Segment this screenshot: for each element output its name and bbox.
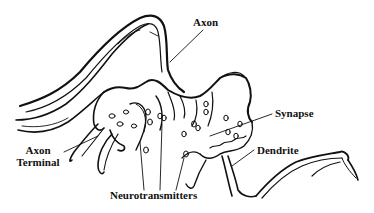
label-dendrite: Dendrite xyxy=(257,144,299,156)
label-axon: Axon xyxy=(193,16,218,28)
axon-shape xyxy=(16,16,184,132)
label-synapse: Synapse xyxy=(275,107,314,119)
synapse-drawing xyxy=(0,0,374,213)
label-axon-terminal-line2: Terminal xyxy=(10,156,66,168)
label-neurotransmitters: Neurotransmitters xyxy=(110,189,197,201)
label-axon-terminal: Axon Terminal xyxy=(10,144,66,168)
label-axon-terminal-line1: Axon xyxy=(10,144,66,156)
vesicles xyxy=(109,101,242,157)
